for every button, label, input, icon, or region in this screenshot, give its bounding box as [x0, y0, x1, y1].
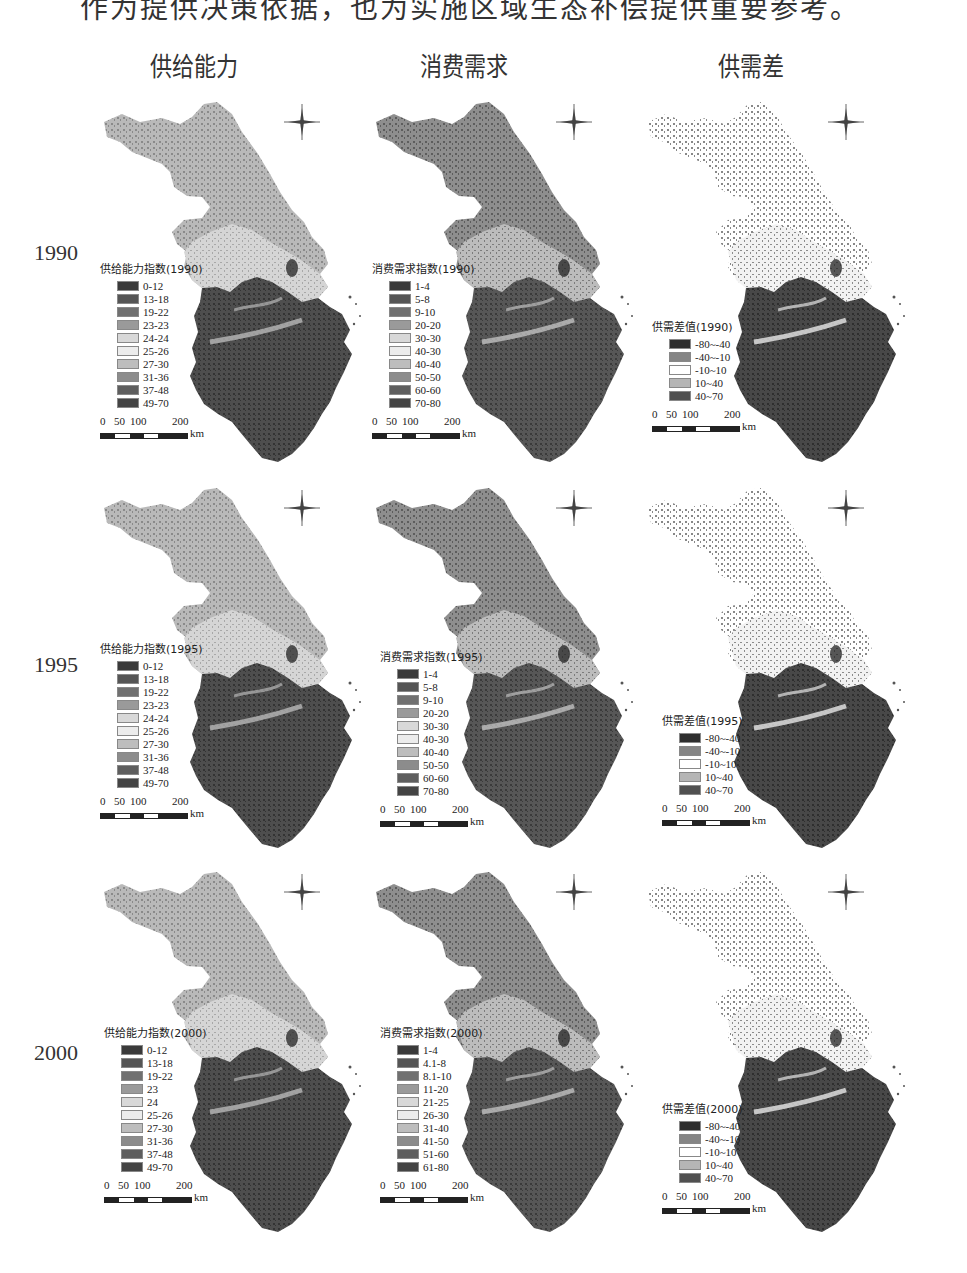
legend-swatch	[117, 294, 139, 304]
legend-item: 40-30	[389, 344, 476, 357]
legend-label: -80~-40	[705, 1120, 740, 1132]
legend-label: 20-20	[423, 707, 449, 719]
scale-bar-graphic	[104, 1197, 192, 1203]
legend-label: 37-48	[143, 764, 169, 776]
map-panel-supply-1995: 供给能力指数(1995)0-1213-1819-2223-2324-2425-2…	[92, 478, 382, 858]
legend-item: 49-70	[121, 1160, 208, 1173]
legend-label: 19-22	[143, 686, 169, 698]
legend-label: 23	[147, 1083, 158, 1095]
legend-label: 20-20	[415, 319, 441, 331]
scale-tick-label: 200	[176, 1179, 193, 1191]
scale-tick-label: 0	[380, 803, 386, 815]
scale-tick-label: 50	[394, 803, 405, 815]
legend-label: 70-80	[415, 397, 441, 409]
legend-label: 26-30	[423, 1109, 449, 1121]
scale-bar: 050100200km	[662, 1190, 766, 1214]
legend-swatch	[397, 669, 419, 679]
legend-label: 19-22	[147, 1070, 173, 1082]
legend-item: 70-80	[389, 396, 476, 409]
legend-item: 40~70	[679, 783, 766, 796]
legend-item: -10~10	[679, 757, 766, 770]
legend-label: 49-70	[143, 397, 169, 409]
legend-label: 27-30	[147, 1122, 173, 1134]
legend-swatch	[397, 682, 419, 692]
map-legend: 消费需求指数(1995)1-45-89-1020-2030-3040-3040-…	[380, 648, 484, 827]
scale-tick-label: 200	[734, 1190, 751, 1202]
legend-swatch	[679, 1134, 701, 1144]
map-legend: 供给能力指数(1995)0-1213-1819-2223-2324-2425-2…	[100, 640, 204, 819]
map-legend: 供给能力指数(2000)0-1213-1819-22232425-2627-30…	[104, 1024, 208, 1203]
legend-item: 40~70	[669, 389, 756, 402]
legend-item: -80~-40	[679, 731, 766, 744]
legend-label: 40-40	[415, 358, 441, 370]
scale-unit: km	[752, 1202, 766, 1214]
legend-label: 50-50	[415, 371, 441, 383]
scale-tick-label: 100	[410, 803, 427, 815]
legend-item: 11-20	[397, 1082, 484, 1095]
legend-swatch	[669, 378, 691, 388]
legend-swatch	[117, 713, 139, 723]
legend-swatch	[669, 391, 691, 401]
legend-item: 0-12	[121, 1043, 208, 1056]
map-legend: 消费需求指数(2000)1-44.1-88.1-1011-2021-2526-3…	[380, 1024, 484, 1203]
legend-swatch	[397, 1162, 419, 1172]
legend-label: 10~40	[705, 1159, 733, 1171]
legend-item: 25-26	[117, 344, 204, 357]
scale-tick-label: 0	[100, 795, 106, 807]
legend-item: -80~-40	[669, 337, 756, 350]
legend-label: 31-40	[423, 1122, 449, 1134]
legend-item: 1-4	[397, 1043, 484, 1056]
scale-tick-label: 200	[172, 795, 189, 807]
legend-swatch	[397, 1084, 419, 1094]
scale-tick-label: 0	[372, 415, 378, 427]
legend-item: -40~-10	[679, 744, 766, 757]
scale-tick-label: 100	[134, 1179, 151, 1191]
legend-label: 30-30	[415, 332, 441, 344]
legend-item: 5-8	[389, 292, 476, 305]
legend-swatch	[389, 320, 411, 330]
north-arrow-icon	[554, 102, 594, 142]
legend-label: 70-80	[423, 785, 449, 797]
legend-label: 51-60	[423, 1148, 449, 1160]
legend-label: 49-70	[143, 777, 169, 789]
scale-unit: km	[190, 807, 204, 819]
legend-swatch	[679, 1147, 701, 1157]
north-arrow-icon	[554, 488, 594, 528]
legend-swatch	[121, 1097, 143, 1107]
scale-bar: 050100200km	[662, 802, 766, 826]
legend-label: 40-40	[423, 746, 449, 758]
map-panel-demand-1990: 消费需求指数(1990)1-45-89-1020-2030-3040-3040-…	[364, 92, 654, 472]
scale-bar-graphic	[372, 433, 460, 439]
legend-label: 24-24	[143, 332, 169, 344]
scale-tick-label: 100	[402, 415, 419, 427]
legend-item: 24-24	[117, 711, 204, 724]
legend-swatch	[389, 294, 411, 304]
legend-label: 40~70	[695, 390, 723, 402]
legend-swatch	[397, 734, 419, 744]
legend-label: 21-25	[423, 1096, 449, 1108]
legend-label: 0-12	[143, 280, 163, 292]
scale-unit: km	[194, 1191, 208, 1203]
legend-swatch	[389, 372, 411, 382]
legend-swatch	[669, 352, 691, 362]
scale-bar: 050100200km	[380, 1179, 484, 1203]
north-arrow-icon	[282, 872, 322, 912]
legend-swatch	[121, 1123, 143, 1133]
legend-label: -40~-10	[705, 1133, 740, 1145]
year-label-1995: 1995	[34, 652, 78, 678]
legend-swatch	[121, 1162, 143, 1172]
legend-item: 1-4	[397, 667, 484, 680]
legend-title: 供给能力指数(1995)	[100, 640, 204, 656]
scale-unit: km	[742, 420, 756, 432]
legend-swatch	[389, 359, 411, 369]
legend-swatch	[397, 1058, 419, 1068]
legend-swatch	[117, 700, 139, 710]
scale-tick-label: 50	[676, 802, 687, 814]
legend-label: 31-36	[147, 1135, 173, 1147]
scale-tick-label: 0	[100, 415, 106, 427]
scale-unit: km	[190, 427, 204, 439]
scale-bar: 050100200km	[372, 415, 476, 439]
legend-label: 13-18	[143, 293, 169, 305]
scale-tick-label: 200	[724, 408, 741, 420]
scale-tick-label: 0	[652, 408, 658, 420]
